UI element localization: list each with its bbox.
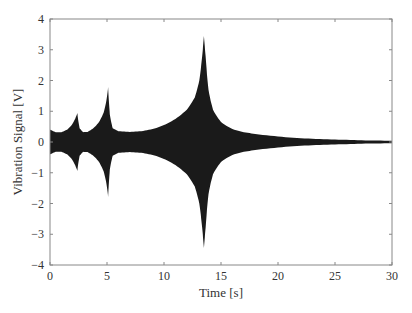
y-tick-label: 0 (38, 135, 44, 149)
signal-envelope (50, 36, 392, 248)
y-tick-label: 1 (38, 104, 44, 118)
y-axis-title: Vibration Signal [V] (10, 89, 25, 196)
x-tick-label: 30 (386, 269, 398, 283)
x-tick-label: 20 (272, 269, 284, 283)
y-tick-label: 3 (38, 43, 44, 57)
x-tick-label: 25 (329, 269, 341, 283)
x-tick-label: 10 (158, 269, 170, 283)
vibration-chart: 051015202530 43210−1−2−3−4 Time [s] Vibr… (0, 0, 412, 313)
x-axis-title: Time [s] (199, 285, 243, 300)
x-tick-label: 15 (215, 269, 227, 283)
y-tick-label: −3 (31, 227, 44, 241)
y-tick-label: −1 (31, 166, 44, 180)
y-tick-label: −4 (31, 258, 44, 272)
y-tick-label: 4 (38, 12, 44, 26)
x-tick-label: 0 (47, 269, 53, 283)
plot-area (50, 19, 392, 265)
y-tick-label: −2 (31, 197, 44, 211)
y-tick-label: 2 (38, 74, 44, 88)
x-tick-label: 5 (104, 269, 110, 283)
